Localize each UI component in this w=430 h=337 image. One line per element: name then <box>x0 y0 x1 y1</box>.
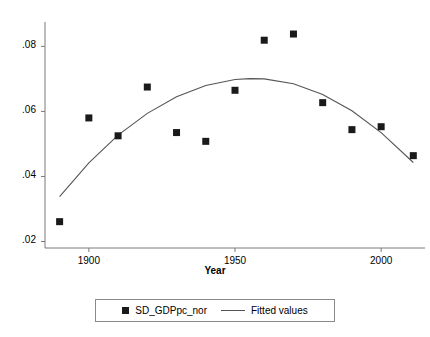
scatter-point <box>348 126 355 133</box>
legend-label-fitted: Fitted values <box>251 305 308 316</box>
scatter-point <box>410 152 417 159</box>
y-tick-label: .08 <box>4 39 36 50</box>
scatter-point <box>85 114 92 121</box>
y-tick-label: .02 <box>4 234 36 245</box>
line-swatch-icon <box>221 310 245 311</box>
scatter-point <box>378 123 385 130</box>
y-tick-label: .04 <box>4 169 36 180</box>
legend-label-scatter: SD_GDPpc_nor <box>135 305 207 316</box>
scatter-point <box>56 218 63 225</box>
scatter-point <box>319 99 326 106</box>
scatter-series-markers <box>56 31 417 226</box>
scatter-point <box>261 37 268 44</box>
fitted-values-line <box>60 79 414 197</box>
scatter-point <box>202 138 209 145</box>
x-axis-ticks <box>89 248 381 252</box>
scatter-point <box>144 84 151 91</box>
scatter-point <box>173 129 180 136</box>
x-axis-title: Year <box>0 265 430 276</box>
scatter-point <box>115 132 122 139</box>
y-axis-ticks <box>41 46 45 241</box>
chart-figure: .02.04.06.08 190019502000 Year SD_GDPpc_… <box>0 0 430 337</box>
chart-legend: SD_GDPpc_nor Fitted values <box>95 299 335 322</box>
scatter-point <box>232 87 239 94</box>
square-marker-icon <box>122 307 129 314</box>
legend-entry-scatter: SD_GDPpc_nor <box>122 305 207 316</box>
legend-entry-fitted: Fitted values <box>221 305 308 316</box>
scatter-point <box>290 31 297 38</box>
y-tick-label: .06 <box>4 104 36 115</box>
plot-area <box>0 0 430 337</box>
